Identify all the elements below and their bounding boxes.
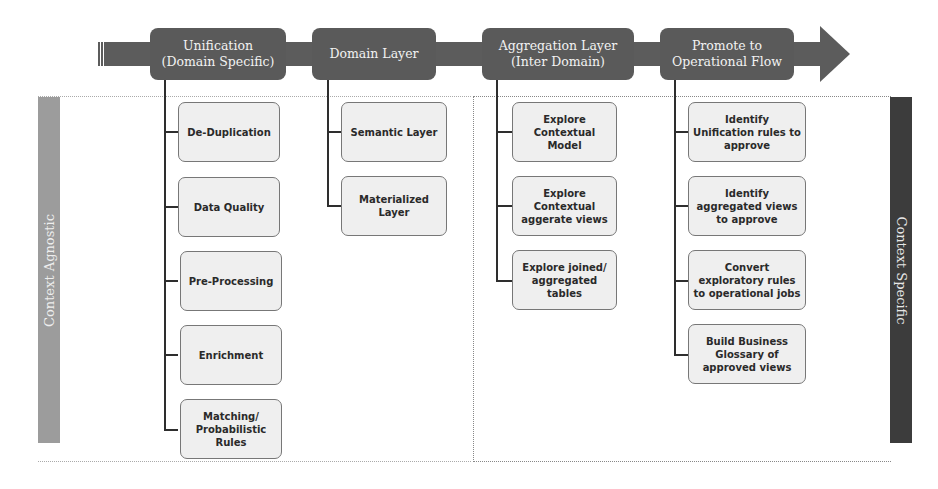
step-semantic-layer: Semantic Layer	[341, 102, 447, 162]
arrow-tail-stripe	[101, 42, 103, 66]
stage-domain-layer: Domain Layer	[312, 28, 436, 80]
connector-horizontal	[496, 205, 512, 207]
stage-sublabel: (Domain Specific)	[162, 54, 275, 70]
step-explore-contextual-aggregate-views: Explore Contextual aggerate views	[512, 176, 617, 236]
step-label: Identify Unification rules to approve	[693, 113, 801, 152]
step-label: Convert exploratory rules to operational…	[693, 261, 801, 300]
stage-label: Promote to	[692, 38, 762, 54]
stage-aggregation-layer: Aggregation Layer (Inter Domain)	[482, 28, 634, 80]
step-label: Explore Contextual aggerate views	[517, 187, 612, 226]
connector-horizontal	[164, 354, 178, 356]
step-label: Matching/ Probabilistic Rules	[185, 410, 277, 449]
connector-horizontal	[674, 131, 688, 133]
step-build-business-glossary: Build Business Glossary of approved view…	[688, 324, 806, 384]
step-label: De-Duplication	[187, 126, 271, 139]
connector-horizontal	[674, 280, 688, 282]
step-label: Pre-Processing	[189, 275, 274, 288]
connector-horizontal	[164, 131, 178, 133]
step-label: Enrichment	[199, 349, 263, 362]
step-label: Data Quality	[194, 201, 265, 214]
step-label: Semantic Layer	[351, 126, 438, 139]
connector-horizontal	[164, 429, 178, 431]
connector-horizontal	[496, 280, 512, 282]
connector-vertical	[327, 80, 329, 207]
step-label: Materialized Layer	[346, 193, 442, 219]
stage-unification: Unification (Domain Specific)	[150, 28, 286, 80]
stage-sublabel: (Inter Domain)	[511, 54, 605, 70]
step-identify-aggregated-views: Identify aggregated views to approve	[688, 176, 806, 236]
step-explore-joined-aggregated-tables: Explore joined/ aggregated tables	[512, 250, 617, 310]
connector-horizontal	[674, 205, 688, 207]
step-label: Build Business Glossary of approved view…	[693, 335, 801, 374]
step-de-duplication: De-Duplication	[178, 102, 280, 162]
stage-label: Unification	[183, 38, 253, 54]
stage-label: Domain Layer	[329, 46, 418, 62]
context-specific-label: Context Specific	[894, 216, 909, 324]
step-label: Explore joined/ aggregated tables	[517, 261, 612, 300]
step-convert-exploratory-rules: Convert exploratory rules to operational…	[688, 250, 806, 310]
connector-horizontal	[164, 206, 178, 208]
stage-promote-operational: Promote to Operational Flow	[660, 28, 794, 80]
stage-label: Aggregation Layer	[499, 38, 618, 54]
connector-horizontal	[327, 205, 341, 207]
step-label: Identify aggregated views to approve	[693, 187, 801, 226]
connector-horizontal	[496, 131, 512, 133]
context-specific-band: Context Specific	[890, 97, 912, 443]
connector-horizontal	[327, 131, 341, 133]
step-label: Explore Contextual Model	[517, 113, 612, 152]
arrow-tail-stripe	[98, 42, 100, 66]
process-arrow-head-icon	[820, 26, 850, 82]
connector-vertical	[674, 80, 676, 356]
connector-horizontal	[674, 354, 688, 356]
step-matching-probabilistic-rules: Matching/ Probabilistic Rules	[180, 399, 282, 459]
context-agnostic-band: Context Agnostic	[38, 97, 60, 443]
connector-horizontal	[164, 280, 178, 282]
step-data-quality: Data Quality	[178, 177, 280, 237]
step-enrichment: Enrichment	[180, 325, 282, 385]
stage-sublabel: Operational Flow	[672, 54, 782, 70]
context-agnostic-label: Context Agnostic	[42, 214, 57, 327]
step-materialized-layer: Materialized Layer	[341, 176, 447, 236]
step-identify-unification-rules: Identify Unification rules to approve	[688, 102, 806, 162]
connector-vertical	[496, 80, 498, 282]
step-pre-processing: Pre-Processing	[180, 251, 282, 311]
step-explore-contextual-model: Explore Contextual Model	[512, 102, 617, 162]
